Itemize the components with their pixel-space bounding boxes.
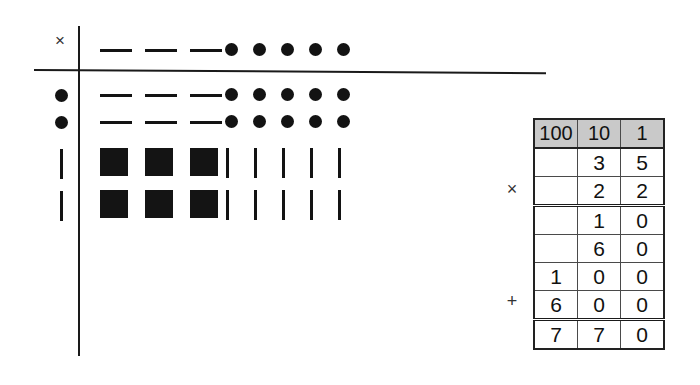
hundred-square-icon (190, 190, 218, 218)
ten-bar-icon (310, 190, 313, 220)
table-row: 60 (534, 235, 664, 263)
table-cell: 7 (578, 320, 621, 350)
ten-bar-icon (254, 190, 257, 220)
ten-rod-dash-icon (145, 49, 177, 52)
table-row: 770 (534, 320, 664, 350)
unit-dot-icon (281, 88, 294, 101)
table-cell: 0 (621, 206, 665, 235)
unit-dot-icon (253, 43, 266, 56)
unit-dot-icon (309, 43, 322, 56)
table-cell: 1 (534, 263, 578, 291)
table-cell: 3 (578, 148, 621, 177)
ten-bar-icon (226, 190, 229, 220)
diagram-horizontal-axis (34, 69, 546, 74)
hundred-square-icon (145, 190, 173, 218)
table-add-operator: + (501, 290, 523, 312)
place-value-table-body: 10010135221060100600770 (534, 119, 664, 349)
column-header-1: 1 (621, 119, 665, 148)
table-cell: 0 (621, 263, 665, 291)
table-row: 35 (534, 148, 664, 177)
place-value-table-wrapper: ×+ 10010135221060100600770 (495, 118, 670, 366)
table-cell: 0 (621, 235, 665, 263)
table-row: 100 (534, 263, 664, 291)
ten-bar-icon (254, 148, 257, 178)
table-cell (534, 206, 578, 235)
hundred-square-icon (100, 190, 128, 218)
table-cell: 7 (534, 320, 578, 350)
ten-rod-dash-icon (100, 49, 132, 52)
ten-rod-dash-icon (145, 121, 177, 124)
table-cell: 5 (621, 148, 665, 177)
unit-dot-icon (309, 88, 322, 101)
ten-bar-icon (226, 148, 229, 178)
diagram-multiply-symbol: × (50, 31, 70, 51)
hundred-square-icon (100, 148, 128, 176)
unit-dot-icon (309, 115, 322, 128)
table-cell: 0 (621, 291, 665, 320)
ten-bar-icon (282, 148, 285, 178)
table-cell: 2 (578, 177, 621, 206)
row-label-bar-icon (60, 191, 63, 221)
table-cell (534, 177, 578, 206)
table-cell: 2 (621, 177, 665, 206)
place-value-counters-diagram: × (0, 0, 560, 385)
table-cell (534, 235, 578, 263)
place-value-table: 10010135221060100600770 (533, 118, 665, 350)
table-row: 10 (534, 206, 664, 235)
unit-dot-icon (281, 115, 294, 128)
table-multiply-operator: × (501, 178, 523, 200)
ten-rod-dash-icon (190, 121, 222, 124)
table-row: 22 (534, 177, 664, 206)
table-row: 600 (534, 291, 664, 320)
unit-dot-icon (253, 88, 266, 101)
table-cell: 1 (578, 206, 621, 235)
ten-bar-icon (310, 148, 313, 178)
table-cell: 0 (578, 291, 621, 320)
ten-bar-icon (338, 190, 341, 220)
unit-dot-icon (337, 115, 350, 128)
hundred-square-icon (190, 148, 218, 176)
diagram-vertical-axis (78, 26, 80, 356)
row-label-bar-icon (60, 149, 63, 179)
column-header-100: 100 (534, 119, 578, 148)
unit-dot-icon (337, 43, 350, 56)
table-cell: 6 (578, 235, 621, 263)
unit-dot-icon (281, 43, 294, 56)
ten-rod-dash-icon (100, 121, 132, 124)
table-cell (534, 148, 578, 177)
ten-rod-dash-icon (190, 49, 222, 52)
unit-dot-icon (225, 115, 238, 128)
table-header-row: 100101 (534, 119, 664, 148)
row-label-dot-icon (55, 89, 68, 102)
ten-rod-dash-icon (190, 94, 222, 97)
row-label-dot-icon (55, 116, 68, 129)
unit-dot-icon (225, 88, 238, 101)
ten-bar-icon (338, 148, 341, 178)
ten-rod-dash-icon (100, 94, 132, 97)
table-cell: 0 (621, 320, 665, 350)
table-cell: 0 (578, 263, 621, 291)
unit-dot-icon (337, 88, 350, 101)
table-cell: 6 (534, 291, 578, 320)
column-header-10: 10 (578, 119, 621, 148)
unit-dot-icon (253, 115, 266, 128)
ten-rod-dash-icon (145, 94, 177, 97)
unit-dot-icon (225, 43, 238, 56)
hundred-square-icon (145, 148, 173, 176)
ten-bar-icon (282, 190, 285, 220)
